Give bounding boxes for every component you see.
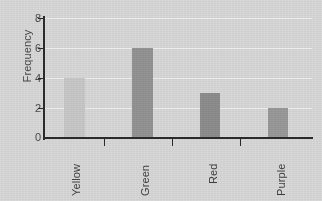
bar-purple[interactable] (268, 108, 288, 138)
gridline-6 (44, 48, 312, 49)
y-axis-line (43, 16, 45, 140)
bar-yellow[interactable] (64, 78, 85, 138)
x-label-red: Red (207, 128, 219, 184)
gridline-8 (44, 18, 312, 19)
bar-chart: Frequency 8 6 4 2 0 Yellow Green Red Pur… (0, 0, 322, 201)
plot-area (44, 18, 312, 138)
x-axis-category-labels: Yellow Green Red Purple (0, 140, 322, 201)
x-axis-line (43, 137, 313, 139)
bar-green[interactable] (132, 48, 153, 138)
x-label-yellow: Yellow (70, 140, 82, 196)
x-label-green: Green (139, 140, 151, 196)
x-label-purple: Purple (275, 140, 287, 196)
